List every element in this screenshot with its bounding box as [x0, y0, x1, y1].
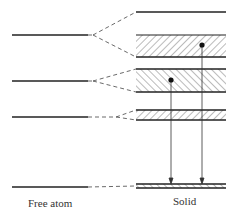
electron-dot-icon — [168, 77, 173, 82]
electron-dot-icon — [199, 42, 204, 47]
solid-band-3 — [136, 69, 226, 92]
dashed-connectors — [88, 12, 136, 187]
solid-band-4 — [136, 110, 226, 120]
arrowhead-icon — [200, 178, 204, 184]
free-atom-levels — [12, 35, 88, 187]
solid-bands — [136, 12, 226, 188]
solid-band-5 — [136, 184, 226, 188]
solid-band-2 — [136, 35, 226, 57]
energy-level-diagram — [0, 0, 236, 216]
arrowhead-icon — [169, 178, 173, 184]
solid-label: Solid — [173, 195, 196, 207]
free-atom-label: Free atom — [28, 197, 72, 209]
